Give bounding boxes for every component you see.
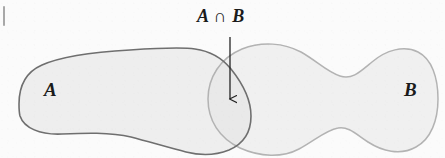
set-b-label: B bbox=[404, 79, 417, 101]
set-a-label: A bbox=[44, 79, 57, 101]
venn-diagram-figure: A B A ∩ B bbox=[0, 0, 445, 158]
intersection-label: A ∩ B bbox=[197, 6, 245, 27]
